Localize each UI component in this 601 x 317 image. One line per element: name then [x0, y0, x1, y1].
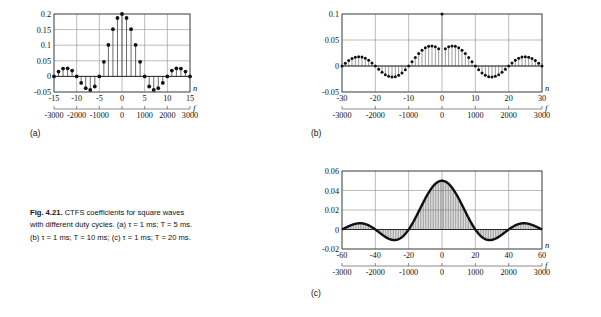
svg-text:0.04: 0.04: [325, 187, 339, 196]
svg-text:0: 0: [47, 72, 51, 81]
svg-text:0: 0: [440, 94, 444, 103]
svg-text:30: 30: [538, 94, 546, 103]
svg-text:0.02: 0.02: [325, 206, 339, 215]
svg-text:0: 0: [120, 111, 124, 120]
svg-text:-60: -60: [337, 251, 348, 260]
svg-text:-20: -20: [403, 251, 414, 260]
svg-text:0: 0: [440, 268, 444, 277]
svg-text:1000: 1000: [467, 111, 483, 120]
svg-text:0.1: 0.1: [41, 41, 51, 50]
svg-text:20: 20: [471, 251, 479, 260]
svg-text:-3000: -3000: [332, 111, 351, 120]
svg-text:60: 60: [538, 251, 546, 260]
svg-text:-1000: -1000: [399, 268, 418, 277]
panel-b: 0.10.050-0.05-30-20-100102030n-3000-2000…: [300, 8, 590, 138]
svg-text:2000: 2000: [500, 111, 516, 120]
svg-text:-15: -15: [49, 94, 60, 103]
svg-text:5: 5: [143, 94, 147, 103]
svg-text:1000: 1000: [136, 111, 152, 120]
panel-a-tag: (a): [30, 128, 40, 138]
panel-c-plot: 0.060.040.020-0.02-60-40-200204060n-3000…: [300, 165, 590, 295]
svg-text:-5: -5: [96, 94, 103, 103]
svg-text:0.1: 0.1: [329, 10, 339, 19]
svg-text:3000: 3000: [534, 268, 550, 277]
panel-c-tag: (c): [311, 288, 321, 298]
svg-text:-1000: -1000: [90, 111, 109, 120]
svg-text:-1000: -1000: [399, 111, 418, 120]
svg-text:3000: 3000: [182, 111, 198, 120]
figure-caption-a: (a) τ = 1 ms; T = 5 ms.: [117, 220, 192, 229]
svg-text:-10: -10: [403, 94, 414, 103]
svg-text:0: 0: [335, 62, 339, 71]
svg-text:0.2: 0.2: [41, 10, 51, 19]
svg-text:0: 0: [440, 251, 444, 260]
svg-text:n: n: [545, 240, 549, 250]
figure-caption-b: (b) τ = 1 ms; T = 10 ms;: [30, 233, 110, 242]
panel-b-tag: (b): [311, 128, 321, 138]
svg-text:-3000: -3000: [44, 111, 63, 120]
svg-text:2000: 2000: [159, 111, 175, 120]
svg-text:2000: 2000: [500, 268, 516, 277]
svg-text:20: 20: [505, 94, 513, 103]
svg-text:-2000: -2000: [366, 111, 385, 120]
svg-text:0.06: 0.06: [325, 167, 339, 176]
figure-caption-c: (c) τ = 1 ms; T = 20 ms.: [112, 233, 191, 242]
svg-text:0: 0: [335, 226, 339, 235]
svg-text:0: 0: [120, 94, 124, 103]
svg-text:-2000: -2000: [67, 111, 86, 120]
svg-text:0.05: 0.05: [37, 57, 51, 66]
figure-label: Fig. 4.21.: [30, 208, 63, 217]
svg-text:-3000: -3000: [332, 268, 351, 277]
svg-text:-30: -30: [337, 94, 348, 103]
svg-text:-2000: -2000: [366, 268, 385, 277]
svg-text:-20: -20: [370, 94, 381, 103]
svg-text:40: 40: [505, 251, 513, 260]
svg-text:-40: -40: [370, 251, 381, 260]
panel-c: 0.060.040.020-0.02-60-40-200204060n-3000…: [300, 165, 590, 295]
svg-text:n: n: [193, 83, 197, 93]
svg-text:0.05: 0.05: [325, 36, 339, 45]
svg-text:0: 0: [440, 111, 444, 120]
svg-text:15: 15: [186, 94, 194, 103]
svg-text:10: 10: [163, 94, 171, 103]
svg-text:1000: 1000: [467, 268, 483, 277]
figure-caption: Fig. 4.21. CTFS coefficients for square …: [30, 207, 198, 244]
panel-b-plot: 0.10.050-0.05-30-20-100102030n-3000-2000…: [300, 8, 590, 138]
panel-a: 0.20.150.10.050-0.05-15-10-5051015n-3000…: [18, 8, 218, 138]
svg-text:n: n: [545, 83, 549, 93]
svg-text:3000: 3000: [534, 111, 550, 120]
panel-a-plot: 0.20.150.10.050-0.05-15-10-5051015n-3000…: [18, 8, 218, 138]
svg-text:-10: -10: [71, 94, 82, 103]
svg-text:0.15: 0.15: [37, 26, 51, 35]
svg-text:10: 10: [471, 94, 479, 103]
